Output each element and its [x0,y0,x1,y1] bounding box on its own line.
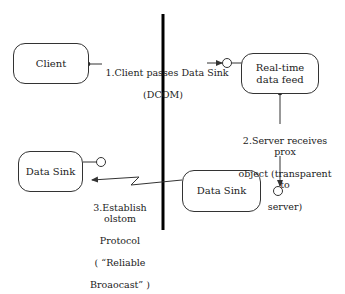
step3-label: 3.Establish olstom Protocol ( “Reliable … [78,191,162,294]
step1-label-line2: (DCOM) [102,89,232,100]
client-node[interactable]: Client [13,43,89,84]
client-node-label: Client [36,58,66,70]
step2-label: 2.Server receives prox object (transpare… [235,124,335,223]
step2-label-line2: object (transparent to [235,168,335,190]
step3-label-line2: Protocol [78,235,162,246]
step2-label-line1: 2.Server receives prox [235,135,335,157]
step3-zigzag-arrow [92,177,182,185]
left-sink-lollipop-icon [97,158,106,167]
step3-label-line4: Broaocast” ) [78,279,162,290]
step1-label: 1.Client passes Data Sink (DCOM) [102,56,232,111]
data-sink-left-node[interactable]: Data Sink [18,151,83,192]
data-sink-left-label: Data Sink [26,166,76,178]
realtime-feed-node-label: Real-time data feed [242,62,318,86]
step2-label-line3: server) [235,201,335,212]
step3-label-line3: ( “Reliable [78,257,162,268]
step1-label-line1: 1.Client passes Data Sink [102,67,232,78]
realtime-feed-node[interactable]: Real-time data feed [241,53,319,94]
step3-label-line1: 3.Establish olstom [78,202,162,224]
